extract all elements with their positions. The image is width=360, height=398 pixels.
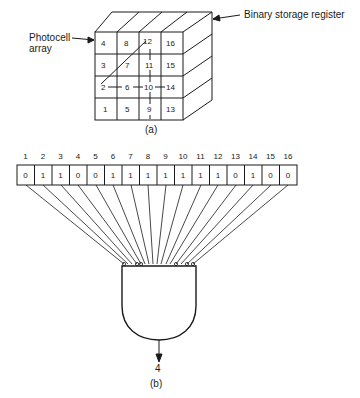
gate-output-arrow (156, 340, 162, 362)
cell-16: 16 (166, 38, 175, 49)
register-bit: 0 (262, 171, 279, 180)
photocell-arrow (72, 37, 94, 43)
register-index: 8 (140, 152, 157, 161)
register-bit: 0 (70, 171, 87, 180)
cube-right-face (183, 12, 212, 120)
register-index: 14 (245, 152, 262, 161)
register-bit: 0 (17, 171, 34, 180)
register-bit: 1 (35, 171, 52, 180)
cell-5: 5 (125, 104, 129, 115)
diagram-canvas (0, 0, 360, 398)
caption-a: (a) (145, 124, 157, 135)
cell-6: 6 (125, 82, 129, 93)
register-bit: 1 (192, 171, 209, 180)
photocell-array-label: Photocell array (29, 32, 70, 54)
binary-storage-register-label: Binary storage register (244, 9, 345, 20)
cell-3: 3 (101, 60, 105, 71)
register-bit: 0 (87, 171, 104, 180)
cell-15: 15 (166, 60, 175, 71)
register-bit: 1 (140, 171, 157, 180)
and-gate (122, 266, 196, 340)
cell-4: 4 (101, 38, 105, 49)
register-index: 13 (227, 152, 244, 161)
register-bit: 1 (210, 171, 227, 180)
register-index: 16 (280, 152, 297, 161)
photocell-label-line2: array (29, 43, 70, 54)
register-bit: 1 (175, 171, 192, 180)
pattern-lines (101, 41, 165, 119)
fan-in-wires (26, 185, 288, 264)
register-bit: 1 (157, 171, 174, 180)
register-bit: 1 (122, 171, 139, 180)
cell-1: 1 (103, 104, 107, 115)
cube-top-face (95, 12, 212, 32)
cell-11: 11 (145, 60, 153, 71)
register-index: 15 (262, 152, 279, 161)
register-bit: 1 (105, 171, 122, 180)
register-index: 7 (122, 152, 139, 161)
cell-13: 13 (166, 104, 175, 115)
register-index: 1 (17, 152, 34, 161)
cell-12: 12 (143, 36, 152, 47)
cell-8: 8 (124, 38, 128, 49)
register-index: 2 (35, 152, 52, 161)
cell-7: 7 (125, 60, 129, 71)
register-bit: 0 (280, 171, 297, 180)
gate-output-value: 4 (155, 363, 161, 374)
register-index: 4 (70, 152, 87, 161)
cell-2: 2 (101, 82, 105, 93)
register-index: 10 (175, 152, 192, 161)
register-index: 6 (105, 152, 122, 161)
register-index: 9 (157, 152, 174, 161)
photocell-label-line1: Photocell (29, 32, 70, 43)
register-bit: 0 (227, 171, 244, 180)
register-index: 3 (52, 152, 69, 161)
caption-b: (b) (150, 378, 162, 389)
register-bit: 1 (245, 171, 262, 180)
cell-14: 14 (166, 82, 175, 93)
register-index: 5 (87, 152, 104, 161)
register-arrow (213, 15, 240, 21)
inverter-bubbles (122, 262, 194, 265)
register-index: 12 (210, 152, 227, 161)
cell-9: 9 (147, 104, 151, 115)
cell-10: 10 (144, 82, 153, 93)
register-index: 11 (192, 152, 209, 161)
register-bit: 1 (52, 171, 69, 180)
